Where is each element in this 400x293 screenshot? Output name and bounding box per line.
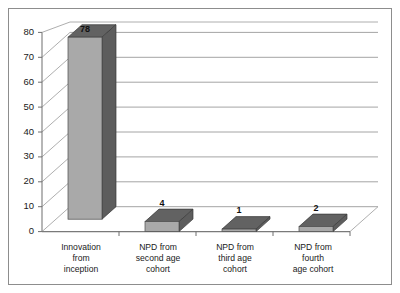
bar-value-label-1: 78 xyxy=(80,24,90,34)
ytick-label-60: 60 xyxy=(23,76,34,87)
category-label-2-line-2: second age xyxy=(136,253,181,263)
category-label-4-line-2: fourth xyxy=(302,253,324,263)
ytick-label-50: 50 xyxy=(23,101,34,112)
category-label-1-line-3: inception xyxy=(64,264,99,274)
ytick-label-20: 20 xyxy=(23,175,34,186)
category-label-4-line-3: age cohort xyxy=(293,264,334,274)
ytick-label-10: 10 xyxy=(23,200,34,211)
bar-front-face-3 xyxy=(222,229,256,232)
bar-value-label-2: 4 xyxy=(159,198,164,208)
category-label-1-line-2: from xyxy=(72,253,89,263)
category-label-3-line-1: NPD from xyxy=(216,242,254,252)
ytick-label-80: 80 xyxy=(23,26,34,37)
bar-value-label-3: 1 xyxy=(236,205,241,215)
category-label-1-line-1: Innovation xyxy=(61,242,101,252)
bar-front-face-2 xyxy=(145,222,179,232)
ytick-label-40: 40 xyxy=(23,126,34,137)
bar-innovation-from-inception[interactable]: 78 xyxy=(68,24,116,219)
category-label-4-line-1: NPD from xyxy=(294,242,332,252)
bar-side-face-1 xyxy=(102,25,116,220)
bar-value-label-4: 2 xyxy=(313,203,318,213)
bar-front-face-4 xyxy=(299,227,333,232)
category-label-3-line-2: third age xyxy=(218,253,252,263)
category-label-3-line-3: cohort xyxy=(223,264,247,274)
ytick-label-0: 0 xyxy=(29,225,34,236)
bar-front-face-1 xyxy=(68,37,102,219)
category-label-2-line-3: cohort xyxy=(146,264,170,274)
ytick-label-70: 70 xyxy=(23,51,34,62)
ytick-label-30: 30 xyxy=(23,150,34,161)
category-label-2-line-1: NPD from xyxy=(139,242,177,252)
bar-chart: 0 10 20 30 40 50 60 70 80 78 xyxy=(0,0,400,293)
